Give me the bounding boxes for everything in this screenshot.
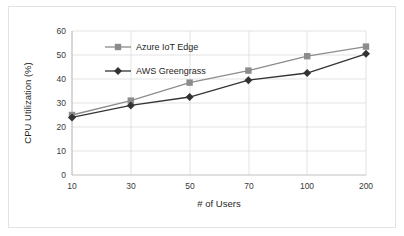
series-line-aws [72,54,366,118]
x-tick-70: 70 [244,181,254,191]
y-tick-0: 0 [61,170,66,180]
x-axis-title: # of Users [197,198,241,209]
data-point-azure-100 [304,53,310,59]
x-tick-100: 100 [300,181,314,191]
legend-square-marker-0 [115,44,121,50]
y-tick-50: 50 [57,50,67,60]
legend-label-1: AWS Greengrass [136,66,206,76]
chart-legend: Azure IoT EdgeAWS Greengrass [105,42,206,76]
series-line-azure [72,47,366,115]
y-axis-title: CPU Utilization (%) [22,62,33,143]
data-point-aws-200 [362,50,370,58]
data-point-azure-50 [186,79,192,85]
x-tick-50: 50 [185,181,195,191]
gridlines [72,31,366,175]
y-tick-30: 30 [57,98,67,108]
x-tick-30: 30 [126,181,136,191]
x-tick-10: 10 [67,181,77,191]
x-tick-200: 200 [359,181,373,191]
y-tick-10: 10 [57,146,67,156]
data-point-aws-70 [244,76,252,84]
y-tick-60: 60 [57,26,67,36]
line-chart-plot: 60 50 40 30 20 10 0 10 30 50 70 100 200 … [0,0,404,236]
data-point-aws-50 [186,93,194,101]
y-tick-labels: 60 50 40 30 20 10 0 [57,26,67,180]
y-tick-20: 20 [57,122,67,132]
chart-figure: 60 50 40 30 20 10 0 10 30 50 70 100 200 … [0,0,404,236]
legend-diamond-marker-1 [114,67,122,75]
data-point-azure-200 [363,43,369,49]
x-tick-labels: 10 30 50 70 100 200 [67,181,373,191]
data-point-azure-70 [245,67,251,73]
y-tick-40: 40 [57,74,67,84]
legend-label-0: Azure IoT Edge [136,42,198,52]
data-point-aws-100 [303,69,311,77]
